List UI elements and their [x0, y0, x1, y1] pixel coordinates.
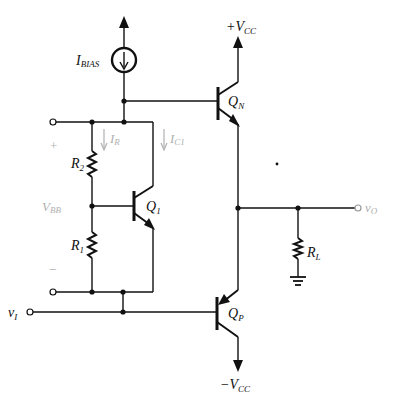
vbb-plus-terminal [50, 119, 56, 125]
arrow-up-icon [119, 16, 129, 28]
r1-label: R1 [70, 238, 84, 255]
plus-sign: + [50, 138, 57, 153]
rl-label: RL [306, 245, 321, 262]
ic1-label: IC1 [169, 131, 185, 147]
r2-label: R2 [70, 156, 85, 173]
vi-label: vI [8, 305, 18, 322]
arrow-down-icon [233, 360, 243, 372]
junction-node [121, 119, 126, 124]
junction-node [120, 309, 125, 314]
vi-input-terminal [27, 309, 33, 315]
vo-label: vO [365, 200, 378, 216]
vcc-positive-label: +VCC [226, 19, 257, 36]
qn-label: QN [228, 94, 245, 111]
qp-pnp-transistor [217, 290, 243, 372]
r2-resistor [88, 122, 96, 232]
vbb-label: VBB [42, 199, 61, 215]
ibias-current-source [112, 16, 136, 122]
ibias-label: IBIAS [75, 53, 100, 69]
qn-npn-transistor [218, 36, 243, 290]
rl-resistor [294, 208, 302, 277]
minus-sign: − [49, 262, 57, 277]
vcc-negative-label: −VCC [220, 377, 251, 394]
ic1-current-arrow [161, 129, 167, 150]
vo-output-terminal [355, 205, 361, 211]
ir-current-arrow [101, 129, 107, 150]
r1-resistor [88, 232, 96, 292]
vbb-minus-terminal [50, 289, 56, 295]
ir-label: IR [109, 131, 120, 147]
qp-label: QP [228, 306, 244, 323]
arrow-up-icon [233, 36, 243, 48]
ground-icon [290, 277, 306, 285]
stray-dot [276, 163, 279, 166]
circuit-schematic: IBIAS +VCC QN IR IC1 R2 + VBB − [0, 0, 393, 407]
q1-label: Q1 [146, 199, 161, 216]
junction-node [89, 289, 94, 294]
